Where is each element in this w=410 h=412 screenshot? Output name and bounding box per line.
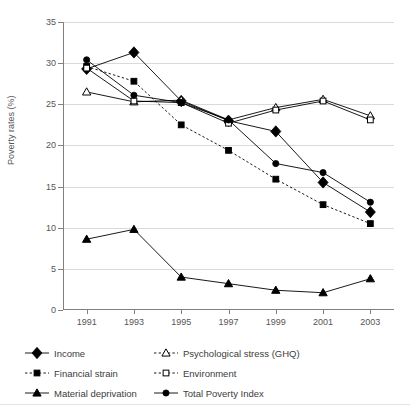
y-tick-label: 30 — [46, 58, 56, 68]
x-tick-mark — [370, 310, 371, 314]
chart-legend: IncomeFinancial strainMaterial deprivati… — [0, 343, 410, 403]
open-square-marker — [84, 65, 90, 71]
series-financial-strain — [84, 64, 373, 227]
series-material-deprivation — [83, 225, 375, 296]
x-tick-mark — [134, 310, 135, 314]
open-triangle-marker — [162, 349, 170, 356]
y-axis-title: Poverty rates (%) — [6, 95, 16, 165]
filled-square-marker — [178, 122, 184, 128]
x-tick-mark — [87, 310, 88, 314]
filled-circle-marker — [178, 100, 184, 106]
filled-triangle-marker — [130, 225, 138, 232]
y-tick-label: 35 — [46, 17, 56, 27]
y-tick-label: 0 — [51, 305, 56, 315]
open-square-marker — [273, 107, 279, 113]
filled-circle-marker — [225, 117, 231, 123]
x-tick-mark — [276, 310, 277, 314]
filled-square-marker — [273, 176, 279, 182]
x-tick-mark — [229, 310, 230, 314]
x-tick-label: 1993 — [124, 317, 144, 327]
y-tick-mark — [58, 310, 63, 311]
legend-item[interactable]: Material deprivation — [24, 383, 137, 403]
legend-column-right: Psychological stress (GHQ)EnvironmentTot… — [153, 343, 300, 403]
legend-item-label: Financial strain — [54, 368, 118, 379]
legend-item-label: Income — [54, 348, 85, 359]
filled-circle-marker — [367, 199, 373, 205]
x-tick-label: 1991 — [77, 317, 97, 327]
filled-triangle-marker — [33, 389, 41, 396]
open-square-icon — [153, 366, 179, 380]
x-tick-label: 1995 — [171, 317, 191, 327]
series-layer — [63, 22, 394, 310]
y-tick-label: 20 — [46, 140, 56, 150]
legend-column-left: IncomeFinancial strainMaterial deprivati… — [24, 343, 137, 403]
open-triangle-icon — [153, 346, 179, 360]
filled-square-icon — [24, 366, 50, 380]
filled-circle-marker — [320, 169, 326, 175]
y-tick-label: 10 — [46, 223, 56, 233]
x-tick-label: 1997 — [218, 317, 238, 327]
x-tick-label: 2001 — [313, 317, 333, 327]
open-square-marker — [131, 98, 137, 104]
legend-item[interactable]: Environment — [153, 363, 300, 383]
open-square-marker — [320, 98, 326, 104]
filled-square-marker — [367, 221, 373, 227]
filled-circle-marker — [273, 160, 279, 166]
y-tick-label: 15 — [46, 182, 56, 192]
series-line — [87, 60, 371, 202]
legend-item-label: Total Poverty Index — [183, 388, 264, 399]
filled-square-marker — [320, 202, 326, 208]
filled-diamond-marker — [32, 347, 42, 358]
filled-triangle-icon — [24, 386, 50, 400]
legend-item-label: Psychological stress (GHQ) — [183, 348, 300, 359]
filled-circle-marker — [131, 92, 137, 98]
open-triangle-marker — [83, 88, 91, 95]
filled-diamond-marker — [365, 206, 375, 217]
filled-square-marker — [131, 78, 137, 84]
series-income — [82, 47, 376, 218]
legend-item[interactable]: Total Poverty Index — [153, 383, 300, 403]
filled-circle-icon — [153, 386, 179, 400]
open-square-marker — [163, 370, 169, 376]
y-tick-label: 25 — [46, 99, 56, 109]
filled-circle-marker — [163, 390, 169, 396]
chart-page: Poverty rates (%) 05101520253035 1991199… — [0, 0, 410, 412]
series-line — [87, 66, 371, 223]
legend-item[interactable]: Psychological stress (GHQ) — [153, 343, 300, 363]
filled-triangle-marker — [366, 275, 374, 282]
plot-area: 05101520253035 1991199319951997199920012… — [63, 22, 394, 310]
x-tick-label: 2003 — [360, 317, 380, 327]
series-line — [87, 52, 371, 212]
filled-diamond-icon — [24, 346, 50, 360]
x-tick-label: 1999 — [266, 317, 286, 327]
filled-circle-marker — [84, 57, 90, 63]
open-square-marker — [367, 117, 373, 123]
filled-square-marker — [226, 147, 232, 153]
legend-divider — [0, 404, 410, 405]
x-tick-mark — [323, 310, 324, 314]
y-tick-label: 5 — [51, 264, 56, 274]
legend-item-label: Environment — [183, 368, 236, 379]
legend-item[interactable]: Income — [24, 343, 137, 363]
x-tick-mark — [181, 310, 182, 314]
filled-square-marker — [34, 370, 40, 376]
legend-item[interactable]: Financial strain — [24, 363, 137, 383]
legend-item-label: Material deprivation — [54, 388, 137, 399]
